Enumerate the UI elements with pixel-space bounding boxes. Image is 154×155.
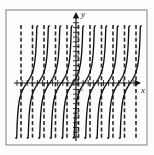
math-plot-svg: x y O [0, 0, 154, 155]
x-axis-label: x [140, 85, 145, 95]
y-axis-label: y [80, 9, 85, 19]
origin-label: O [79, 87, 83, 92]
figure-background [0, 0, 154, 155]
figure-container: x y O [0, 0, 154, 155]
